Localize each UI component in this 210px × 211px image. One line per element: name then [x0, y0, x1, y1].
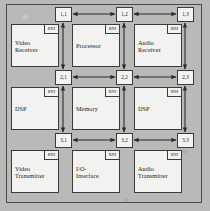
ip-core-label: Memory [76, 105, 98, 112]
ip-core-block-ip11[interactable]: Video ReceiverRNI [11, 24, 59, 67]
ip-core-label: DSP [15, 105, 27, 112]
ip-core-block-ip32[interactable]: I/O- InterfaceRNI [72, 150, 120, 193]
rni-interface-badge[interactable]: RNI [44, 87, 59, 97]
router-address-label: 1,1 [60, 12, 67, 17]
rni-label: RNI [48, 90, 56, 94]
rni-interface-badge[interactable]: RNI [44, 24, 59, 34]
ip-core-block-ip12[interactable]: ProcessorRNI [72, 24, 120, 67]
ip-core-label: Video Transmitter [15, 164, 45, 179]
router-r12[interactable]: 1,2 [116, 7, 133, 22]
rni-label: RNI [171, 90, 179, 94]
ip-core-block-ip33[interactable]: Audio TransmitterRNI [134, 150, 182, 193]
rni-label: RNI [48, 27, 56, 31]
rni-label: RNI [171, 27, 179, 31]
ip-core-block-ip31[interactable]: Video TransmitterRNI [11, 150, 59, 193]
ip-core-block-ip23[interactable]: DSPRNI [134, 87, 182, 130]
rni-label: RNI [109, 90, 117, 94]
noc-mesh-figure: Video ReceiverRNIProcessorRNIAudio Recei… [0, 0, 210, 211]
ip-core-label: Processor [76, 42, 101, 49]
router-r11[interactable]: 1,1 [55, 7, 72, 22]
rni-interface-badge[interactable]: RNI [167, 87, 182, 97]
router-address-label: 2,3 [182, 75, 189, 80]
router-address-label: 3,3 [182, 138, 189, 143]
rni-interface-badge[interactable]: RNI [105, 150, 120, 160]
rni-label: RNI [171, 153, 179, 157]
ip-core-label: Audio Receiver [138, 38, 161, 53]
rni-interface-badge[interactable]: RNI [167, 24, 182, 34]
ip-core-label: I/O- Interface [76, 164, 99, 179]
ip-core-label: Video Receiver [15, 38, 38, 53]
ip-core-block-ip21[interactable]: DSPRNI [11, 87, 59, 130]
rni-label: RNI [48, 153, 56, 157]
ip-core-block-ip22[interactable]: MemoryRNI [72, 87, 120, 130]
rni-label: RNI [109, 27, 117, 31]
ip-core-block-ip13[interactable]: Audio ReceiverRNI [134, 24, 182, 67]
router-r23[interactable]: 2,3 [177, 70, 194, 85]
router-address-label: 3,1 [60, 138, 67, 143]
router-r22[interactable]: 2,2 [116, 70, 133, 85]
router-r32[interactable]: 3,2 [116, 133, 133, 148]
router-r21[interactable]: 2,1 [55, 70, 72, 85]
rni-interface-badge[interactable]: RNI [44, 150, 59, 160]
router-address-label: 2,1 [60, 75, 67, 80]
router-address-label: 2,2 [121, 75, 128, 80]
router-address-label: 1,2 [121, 12, 128, 17]
router-r13[interactable]: 1,3 [177, 7, 194, 22]
router-address-label: 3,2 [121, 138, 128, 143]
router-address-label: 1,3 [182, 12, 189, 17]
rni-interface-badge[interactable]: RNI [167, 150, 182, 160]
rni-label: RNI [109, 153, 117, 157]
rni-interface-badge[interactable]: RNI [105, 87, 120, 97]
rni-interface-badge[interactable]: RNI [105, 24, 120, 34]
ip-core-label: Audio Transmitter [138, 164, 168, 179]
router-r31[interactable]: 3,1 [55, 133, 72, 148]
ip-core-label: DSP [138, 105, 150, 112]
router-r33[interactable]: 3,3 [177, 133, 194, 148]
